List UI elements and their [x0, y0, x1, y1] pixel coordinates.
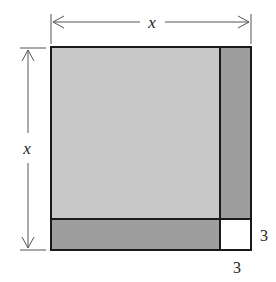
right-small-label: 3	[260, 227, 268, 244]
bottom-small-label: 3	[233, 259, 241, 276]
left-dimension-label: x	[22, 139, 31, 158]
small-square	[220, 219, 251, 250]
top-dimension-label: x	[147, 13, 156, 32]
large-square	[51, 47, 220, 219]
right-strip	[220, 47, 251, 219]
completing-square-diagram: x x 3 3	[0, 0, 276, 282]
bottom-strip	[51, 219, 220, 250]
